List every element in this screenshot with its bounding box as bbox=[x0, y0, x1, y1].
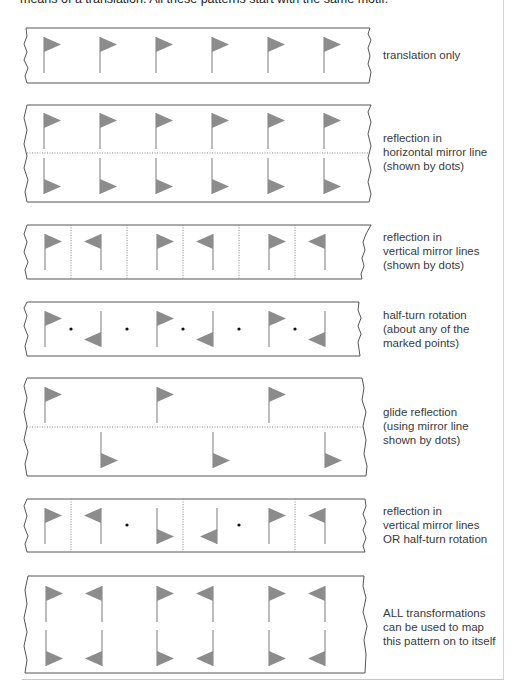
strip-glide-reflection bbox=[24, 378, 367, 476]
label-vertical-or-half-turn: reflection in vertical mirror lines OR h… bbox=[383, 504, 487, 546]
label-vertical-reflection: reflection in vertical mirror lines (sho… bbox=[383, 230, 480, 272]
strip-vertical-reflection bbox=[24, 225, 371, 279]
strip-translation bbox=[24, 28, 371, 83]
label-horizontal-reflection: reflection in horizontal mirror line (sh… bbox=[383, 131, 487, 173]
strip-horizontal-reflection bbox=[24, 105, 371, 202]
strip-all-transformations bbox=[24, 576, 367, 673]
label-glide-reflection: glide reflection (using mirror line show… bbox=[383, 405, 469, 447]
label-translation: translation only bbox=[383, 48, 460, 62]
label-all-transformations: ALL transformations can be used to map t… bbox=[383, 606, 496, 648]
strip-half-turn bbox=[24, 302, 361, 356]
strip-vertical-or-half-turn bbox=[24, 499, 366, 552]
label-half-turn: half-turn rotation (about any of the mar… bbox=[383, 308, 469, 350]
